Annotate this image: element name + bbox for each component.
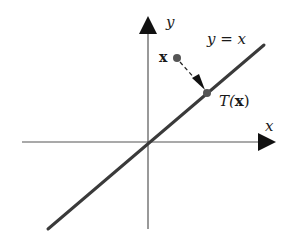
T-close-paren: ) [244,92,250,110]
x-axis-label: x [265,117,274,135]
point-x [173,54,181,62]
y-axis-label: y [165,13,175,31]
x-axis-arrowhead-icon [258,133,276,151]
line-equation-label: y = x [206,30,247,48]
T-function-label: T( [219,92,236,110]
y-axis-arrowhead-icon [139,16,157,34]
projection-arrowhead-icon [192,74,205,90]
line-y-equals-x [48,45,264,229]
point-T-x-label: T(x) [219,92,250,110]
projection-arrow [180,62,205,90]
point-x-label: x [159,49,168,65]
point-T-x [203,89,211,97]
projection-diagram: y x y = x x T(x) [0,0,288,238]
y-axis [139,16,157,229]
